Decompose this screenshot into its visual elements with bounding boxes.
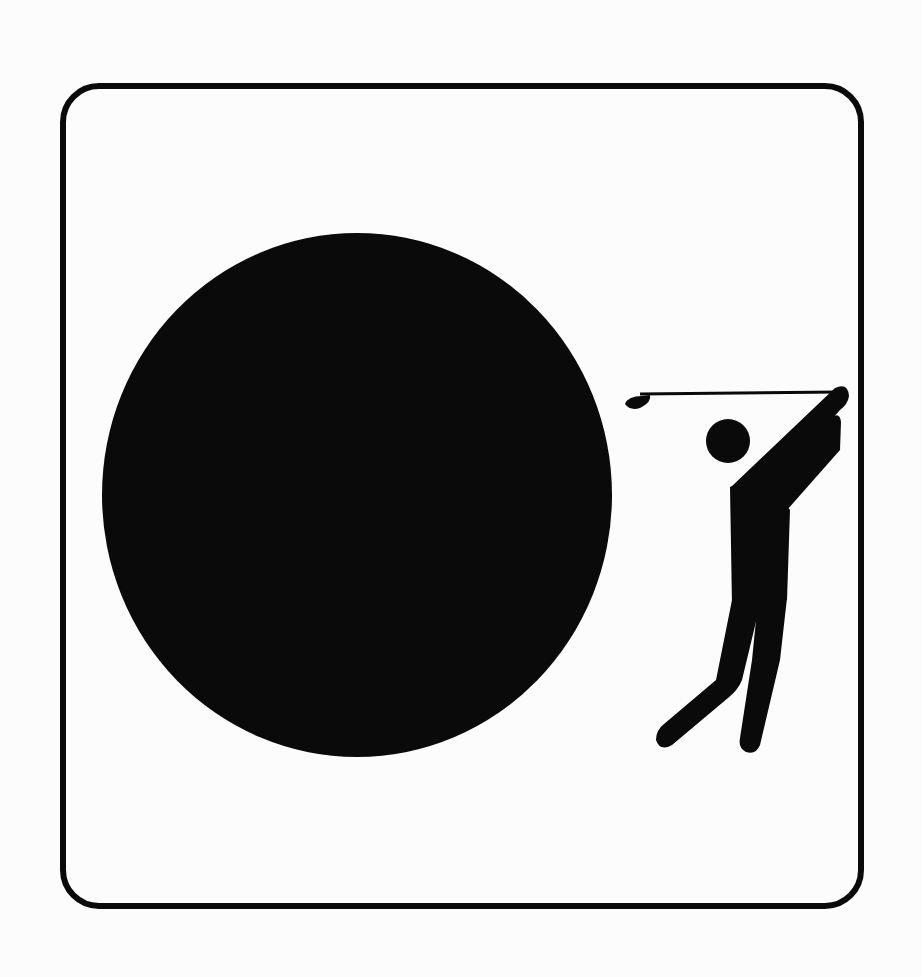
golf-club-head-icon [625,395,650,409]
golfer-head [706,419,750,463]
golf-sign [0,0,922,977]
golfer-icon [625,386,849,752]
golf-club-shaft [640,392,840,394]
golf-ball-icon [102,233,612,757]
golf-pictogram-canvas [0,0,922,977]
